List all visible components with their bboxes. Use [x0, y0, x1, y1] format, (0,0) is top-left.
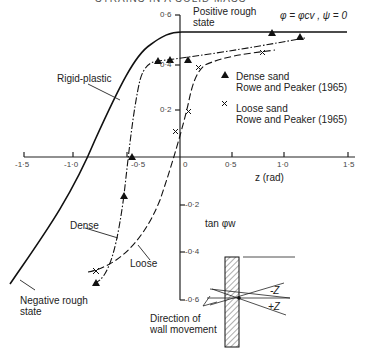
x-tick: 0·5	[225, 160, 237, 169]
x-axis-label: z (rad)	[255, 172, 284, 183]
y-tick: -0·4	[185, 247, 199, 256]
wall-icon	[225, 257, 239, 347]
x-tick: 1·0	[277, 160, 289, 169]
y-tick: 0·2	[160, 105, 172, 114]
x-tick: -1·5	[15, 160, 29, 169]
y-axis-label: tan φw	[205, 218, 235, 229]
condition-label: φ = φcv , ψ = 0	[280, 10, 347, 21]
positive-rough-label: Positive rough state	[193, 6, 256, 28]
rigid-plastic-curve	[10, 32, 347, 284]
y-tick: 0·6	[160, 10, 172, 19]
plus-z-label: +Z	[268, 301, 280, 312]
negative-leader	[20, 280, 35, 290]
wall-movement-label: Direction of wall movement	[150, 313, 217, 335]
legend-loose: Loose sand Rowe and Peaker (1965)	[222, 103, 347, 125]
y-tick: -0·6	[185, 295, 199, 304]
y-tick: 0·4	[160, 60, 172, 69]
x-tick: 0	[183, 160, 187, 169]
minus-z-label: -Z	[270, 285, 279, 296]
x-tick: -1·0	[64, 160, 78, 169]
y-tick: -0·2	[185, 200, 199, 209]
rigid-leader	[88, 84, 120, 100]
negative-rough-label: Negative rough state	[20, 295, 88, 317]
x-axis	[24, 152, 355, 157]
legend-dense: Dense sand Rowe and Peaker (1965)	[222, 71, 347, 93]
loose-label: Loose	[130, 258, 157, 269]
dense-label: Dense	[70, 220, 99, 231]
rigid-plastic-label: Rigid-plastic	[57, 73, 111, 84]
x-tick: 1·5	[343, 160, 355, 169]
x-tick: -0·5	[131, 160, 145, 169]
